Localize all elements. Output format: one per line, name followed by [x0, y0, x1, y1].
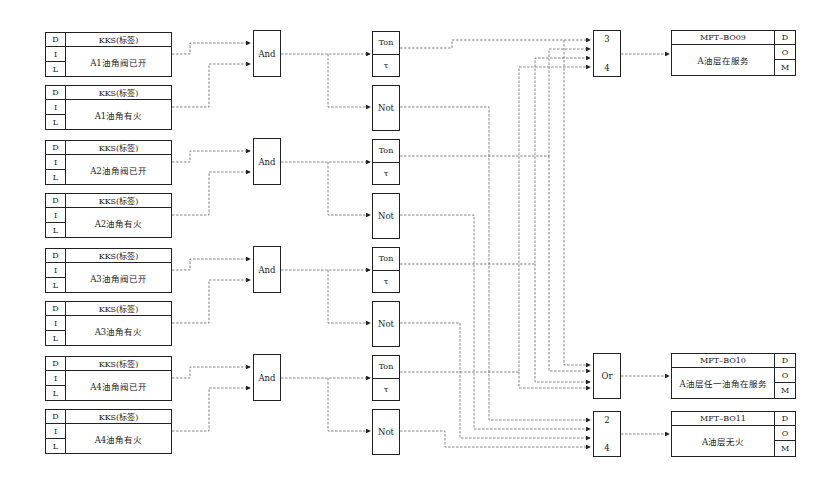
input-block-a1-flame: D KKS(标签) I A1油角有火 L — [45, 85, 172, 130]
output-description: A油层无火 — [672, 426, 775, 456]
input-block-a3-valve-open: D KKS(标签) I A3油角阀已开 L — [45, 248, 172, 293]
and-gate-1: And — [253, 30, 281, 77]
and-gate-4: And — [253, 354, 281, 401]
not-gate-3: Not — [372, 301, 400, 347]
input-description: A1油角阀已开 — [66, 47, 171, 77]
d-label: D — [46, 141, 66, 155]
input-block-a4-valve-open: D KKS(标签) I A4油角阀已开 L — [45, 356, 172, 401]
ton-label: Ton — [373, 32, 399, 55]
d-label: D — [46, 194, 66, 208]
kks-tag: KKS(标签) — [66, 302, 171, 316]
m-label: M — [775, 383, 795, 398]
kks-tag: KKS(标签) — [66, 33, 171, 47]
input-description: A1油角有火 — [66, 100, 171, 130]
input-description: A2油角阀已开 — [66, 155, 171, 185]
vote-numerator: 3 — [594, 34, 620, 44]
vote-denominator: 4 — [594, 443, 620, 453]
kks-tag: KKS(标签) — [66, 357, 171, 371]
i-label: I — [46, 424, 66, 439]
output-description: A油层任一油角在服务 — [672, 368, 775, 398]
l-label: L — [46, 62, 66, 77]
i-label: I — [46, 263, 66, 278]
not-gate-2: Not — [372, 193, 400, 239]
d-label: D — [46, 249, 66, 263]
o-label: O — [775, 45, 795, 60]
output-tag: MFT–BO10 — [672, 354, 775, 368]
l-label: L — [46, 439, 66, 454]
not-gate-1: Not — [372, 85, 400, 131]
d-label: D — [775, 354, 795, 368]
d-label: D — [775, 31, 795, 45]
o-label: O — [775, 368, 795, 383]
and-gate-2: And — [253, 138, 281, 185]
ton-timer-2: Ton τ — [372, 139, 400, 185]
input-description: A4油角有火 — [66, 424, 171, 454]
output-tag: MFT–BO09 — [672, 31, 775, 45]
vote-3-of-4: 3 4 — [593, 30, 621, 77]
input-description: A3油角阀已开 — [66, 263, 171, 293]
input-description: A3油角有火 — [66, 316, 171, 346]
input-block-a1-valve-open: D KKS(标签) I A1油角阀已开 L — [45, 32, 172, 77]
d-label: D — [46, 33, 66, 47]
ton-label: Ton — [373, 248, 399, 271]
i-label: I — [46, 316, 66, 331]
kks-tag: KKS(标签) — [66, 194, 171, 208]
d-label: D — [775, 412, 795, 426]
or-gate: Or — [593, 353, 621, 399]
output-block-bo11: MFT–BO11 D A油层无火 O M — [671, 411, 796, 457]
vote-2-of-4: 2 4 — [593, 411, 621, 457]
tau-parameter: τ — [373, 271, 399, 293]
not-gate-4: Not — [372, 409, 400, 455]
ton-label: Ton — [373, 356, 399, 379]
tau-parameter: τ — [373, 55, 399, 77]
input-block-a3-flame: D KKS(标签) I A3油角有火 L — [45, 301, 172, 346]
tau-parameter: τ — [373, 379, 399, 401]
i-label: I — [46, 155, 66, 170]
kks-tag: KKS(标签) — [66, 410, 171, 424]
input-description: A4油角阀已开 — [66, 371, 171, 401]
i-label: I — [46, 100, 66, 115]
ton-timer-3: Ton τ — [372, 247, 400, 293]
output-block-bo10: MFT–BO10 D A油层任一油角在服务 O M — [671, 353, 796, 399]
output-description: A油层在服务 — [672, 45, 775, 75]
d-label: D — [46, 86, 66, 100]
output-block-bo09: MFT–BO09 D A油层在服务 O M — [671, 30, 796, 76]
i-label: I — [46, 208, 66, 223]
m-label: M — [775, 60, 795, 75]
i-label: I — [46, 371, 66, 386]
ton-label: Ton — [373, 140, 399, 163]
tau-parameter: τ — [373, 163, 399, 185]
and-gate-3: And — [253, 246, 281, 293]
l-label: L — [46, 386, 66, 401]
input-block-a2-flame: D KKS(标签) I A2油角有火 L — [45, 193, 172, 238]
input-description: A2油角有火 — [66, 208, 171, 238]
l-label: L — [46, 115, 66, 130]
o-label: O — [775, 426, 795, 441]
vote-denominator: 4 — [594, 63, 620, 73]
m-label: M — [775, 441, 795, 456]
input-block-a4-flame: D KKS(标签) I A4油角有火 L — [45, 409, 172, 454]
ton-timer-4: Ton τ — [372, 355, 400, 401]
output-tag: MFT–BO11 — [672, 412, 775, 426]
l-label: L — [46, 331, 66, 346]
vote-numerator: 2 — [594, 415, 620, 425]
l-label: L — [46, 278, 66, 293]
kks-tag: KKS(标签) — [66, 141, 171, 155]
i-label: I — [46, 47, 66, 62]
ton-timer-1: Ton τ — [372, 31, 400, 77]
l-label: L — [46, 170, 66, 185]
kks-tag: KKS(标签) — [66, 86, 171, 100]
kks-tag: KKS(标签) — [66, 249, 171, 263]
l-label: L — [46, 223, 66, 238]
d-label: D — [46, 302, 66, 316]
d-label: D — [46, 410, 66, 424]
input-block-a2-valve-open: D KKS(标签) I A2油角阀已开 L — [45, 140, 172, 185]
d-label: D — [46, 357, 66, 371]
